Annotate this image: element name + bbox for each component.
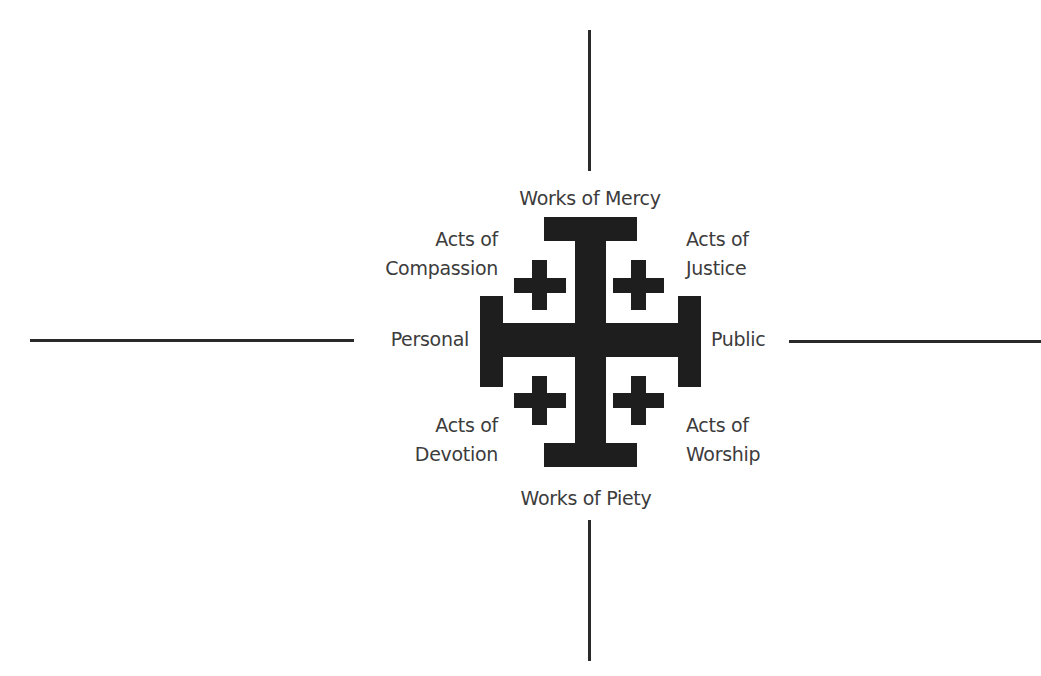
bottom-axis-line	[588, 520, 591, 661]
axis-label-left: Personal	[360, 325, 469, 354]
quadrant-label-line: Justice	[686, 254, 826, 283]
cross-bottom-bar	[544, 443, 637, 467]
quadrant-label-line: Acts of	[340, 225, 498, 254]
quadrant-label-line: Acts of	[686, 225, 826, 254]
quadrant-label-line: Devotion	[340, 440, 498, 469]
axis-label-top: Works of Mercy	[500, 184, 680, 213]
quadrant-label-bottom-left: Acts of Devotion	[340, 411, 498, 469]
axis-label-bottom: Works of Piety	[500, 484, 672, 513]
quadrant-label-line: Worship	[686, 440, 826, 469]
quadrant-label-line: Compassion	[340, 254, 498, 283]
cross-right-bar	[678, 296, 701, 387]
quadrant-label-bottom-right: Acts of Worship	[686, 411, 826, 469]
axis-label-right: Public	[711, 325, 791, 354]
cross-top-bar	[544, 217, 637, 241]
top-axis-line	[588, 30, 591, 171]
cross-left-bar	[480, 296, 503, 387]
right-axis-line	[789, 340, 1041, 343]
quadrant-label-top-left: Acts of Compassion	[340, 225, 498, 283]
quadrant-label-line: Acts of	[340, 411, 498, 440]
quadrant-label-top-right: Acts of Justice	[686, 225, 826, 283]
quadrant-label-line: Acts of	[686, 411, 826, 440]
left-axis-line	[30, 339, 354, 342]
cross-horizontal-arm	[480, 323, 701, 357]
